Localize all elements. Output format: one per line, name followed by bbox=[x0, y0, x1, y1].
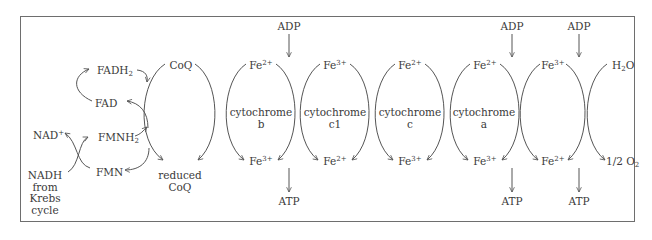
reduced-coq-label: reduced CoQ bbox=[158, 170, 202, 193]
coq-label: CoQ bbox=[170, 59, 193, 71]
nad-plus-label: NAD+ bbox=[33, 129, 64, 141]
cytochrome-c1-label: cytochrome c1 bbox=[304, 107, 367, 130]
cyt-b-top-fe: Fe2+ bbox=[249, 59, 272, 71]
fadh2-to-coq-arrow bbox=[137, 70, 147, 82]
oxygen-label: 1/2 O2 bbox=[606, 155, 639, 167]
cyt-c-top-fe: Fe2+ bbox=[398, 59, 421, 71]
adp-label-2: ADP bbox=[500, 20, 523, 32]
cyt-a3-bottom-fe: Fe2+ bbox=[541, 155, 564, 167]
nadh-label: NADH from Krebs cycle bbox=[28, 170, 62, 216]
cyt-a-top-fe: Fe2+ bbox=[473, 59, 496, 71]
adp-label-3: ADP bbox=[567, 20, 590, 32]
fad-to-fadh2-arrow bbox=[77, 69, 92, 101]
fadh2-label: FADH2 bbox=[97, 64, 133, 76]
cyt-c1-bottom-fe: Fe2+ bbox=[323, 155, 346, 167]
water-label: H2O bbox=[612, 59, 634, 71]
cytochrome-b-label: cytochrome b bbox=[230, 107, 293, 130]
cytochrome-a-label: cytochrome a bbox=[453, 107, 516, 130]
fad-label: FAD bbox=[95, 97, 117, 109]
cyt-b-bottom-fe: Fe3+ bbox=[249, 155, 272, 167]
atp-label-2: ATP bbox=[501, 195, 522, 207]
atp-label-1: ATP bbox=[278, 195, 299, 207]
cyt-c1-top-fe: Fe3+ bbox=[323, 59, 346, 71]
fmnh2-label: FMNH2 bbox=[98, 131, 139, 143]
cyt-c-bottom-fe: Fe3+ bbox=[398, 155, 421, 167]
fmn-label: FMN bbox=[96, 166, 123, 178]
cytochrome-c-label: cytochrome c bbox=[379, 107, 442, 130]
adp-label-1: ADP bbox=[277, 20, 300, 32]
cyt-a3-top-fe: Fe3+ bbox=[541, 59, 564, 71]
coq-to-cytb-arc bbox=[195, 64, 215, 160]
cyt-a-bottom-fe: Fe3+ bbox=[473, 155, 496, 167]
arc-to-fmn-arrow bbox=[125, 148, 149, 170]
atp-label-3: ATP bbox=[568, 195, 589, 207]
